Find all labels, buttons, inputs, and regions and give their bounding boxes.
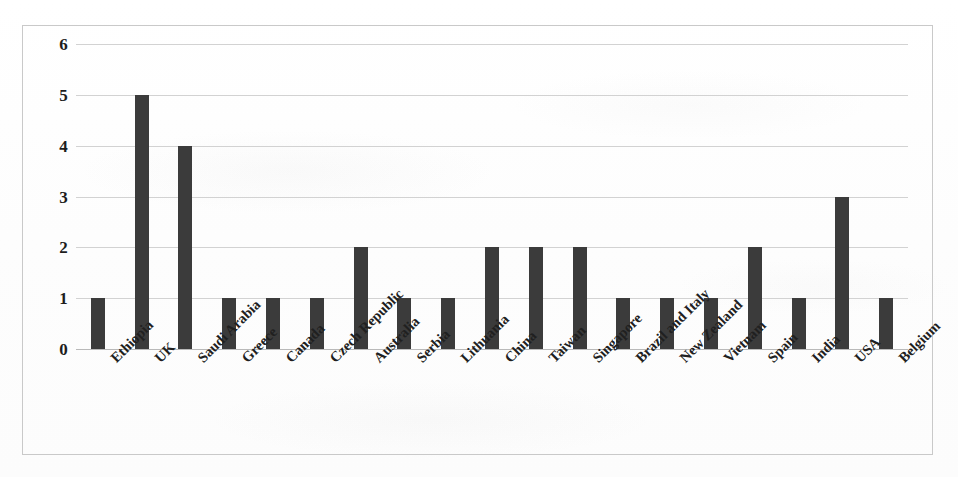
y-tick-label-0: 0 [28,341,68,358]
gridline-4 [76,146,908,147]
y-tick-label-1: 1 [28,290,68,307]
plot-area [76,44,908,349]
bar [879,298,893,349]
gridline-5 [76,95,908,96]
y-tick-label-4: 4 [28,137,68,154]
y-tick-label-3: 3 [28,188,68,205]
y-tick-label-5: 5 [28,86,68,103]
scanned-chart-page: 0123456 EthiopiaUKSaudi ArabiaGreeceCana… [0,0,958,477]
y-tick-label-2: 2 [28,239,68,256]
bar [835,197,849,350]
gridline-6 [76,44,908,45]
bar [135,95,149,349]
gridline-3 [76,197,908,198]
bar [178,146,192,349]
y-tick-label-6: 6 [28,36,68,53]
bar [91,298,105,349]
y-axis-tick-labels: 0123456 [20,44,68,349]
